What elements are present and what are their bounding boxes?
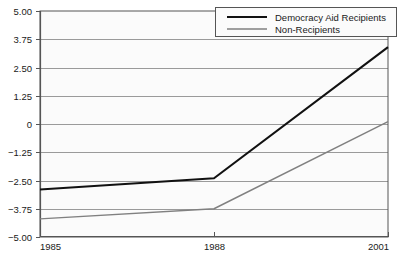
legend-label-non-recipients: Non-Recipients	[275, 24, 340, 35]
x-tick-label-2001: 2001	[368, 241, 389, 252]
y-tick-label-2.50: 2.50	[14, 63, 33, 74]
x-tick-label-1988: 1988	[204, 241, 225, 252]
y-tick-label-3.75: 3.75	[14, 34, 33, 45]
y-tick-label--3.75: −3.75	[8, 204, 32, 215]
y-tick-label--5.00: −5.00	[8, 232, 32, 243]
y-tick-label-5.00: 5.00	[14, 6, 33, 17]
chart-canvas: 5.003.752.501.250−1.25−2.50−3.75−5.00 19…	[0, 0, 404, 262]
y-tick-label-1.25: 1.25	[14, 91, 33, 102]
y-tick-label--2.50: −2.50	[8, 176, 32, 187]
line-chart: 5.003.752.501.250−1.25−2.50−3.75−5.00 19…	[0, 0, 404, 262]
x-tick-label-1985: 1985	[40, 241, 61, 252]
y-tick-label--1.25: −1.25	[8, 147, 32, 158]
y-tick-label-0: 0	[27, 119, 32, 130]
chart-legend: Democracy Aid Recipients Non-Recipients	[216, 8, 397, 37]
y-axis: 5.003.752.501.250−1.25−2.50−3.75−5.00	[8, 6, 40, 243]
legend-label-democracy-aid-recipients: Democracy Aid Recipients	[275, 12, 386, 23]
